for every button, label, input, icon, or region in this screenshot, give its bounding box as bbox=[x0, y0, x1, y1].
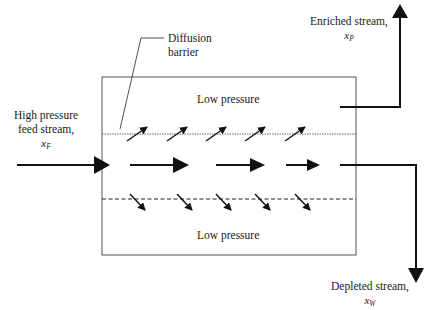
feed-label-line1: High pressure bbox=[4, 108, 88, 122]
diffusion-barrier-label: Diffusion barrier bbox=[168, 31, 212, 59]
enriched-symbol: xP bbox=[306, 28, 392, 46]
feed-symbol: xF bbox=[4, 136, 88, 154]
flow-arrow-icon bbox=[216, 158, 265, 172]
depleted-symbol: xW bbox=[324, 293, 416, 310]
low-pressure-top-label: Low pressure bbox=[197, 92, 259, 106]
barrier-label-line2: barrier bbox=[168, 45, 212, 59]
depleted-label-line1: Depleted stream, bbox=[324, 279, 416, 293]
barrier-leader-line bbox=[120, 38, 164, 129]
depleted-stream-arrow-icon bbox=[340, 165, 424, 283]
enriched-stream-label: Enriched stream, xP bbox=[306, 14, 392, 46]
barrier-label-line1: Diffusion bbox=[168, 31, 212, 45]
feed-stream-label: High pressure feed stream, xF bbox=[4, 108, 88, 154]
flow-arrow-icon bbox=[130, 157, 189, 173]
flow-arrow-icon bbox=[286, 159, 320, 171]
low-pressure-bottom-label: Low pressure bbox=[197, 228, 259, 242]
feed-arrow-icon bbox=[17, 156, 110, 174]
diffusion-stage-diagram: High pressure feed stream, xF Diffusion … bbox=[0, 0, 427, 310]
depleted-stream-label: Depleted stream, xW bbox=[324, 279, 416, 310]
diagram-canvas bbox=[0, 0, 427, 310]
feed-label-line2: feed stream, bbox=[4, 122, 88, 136]
enriched-label-line1: Enriched stream, bbox=[306, 14, 392, 28]
downward-diffusion-arrows bbox=[130, 194, 310, 210]
